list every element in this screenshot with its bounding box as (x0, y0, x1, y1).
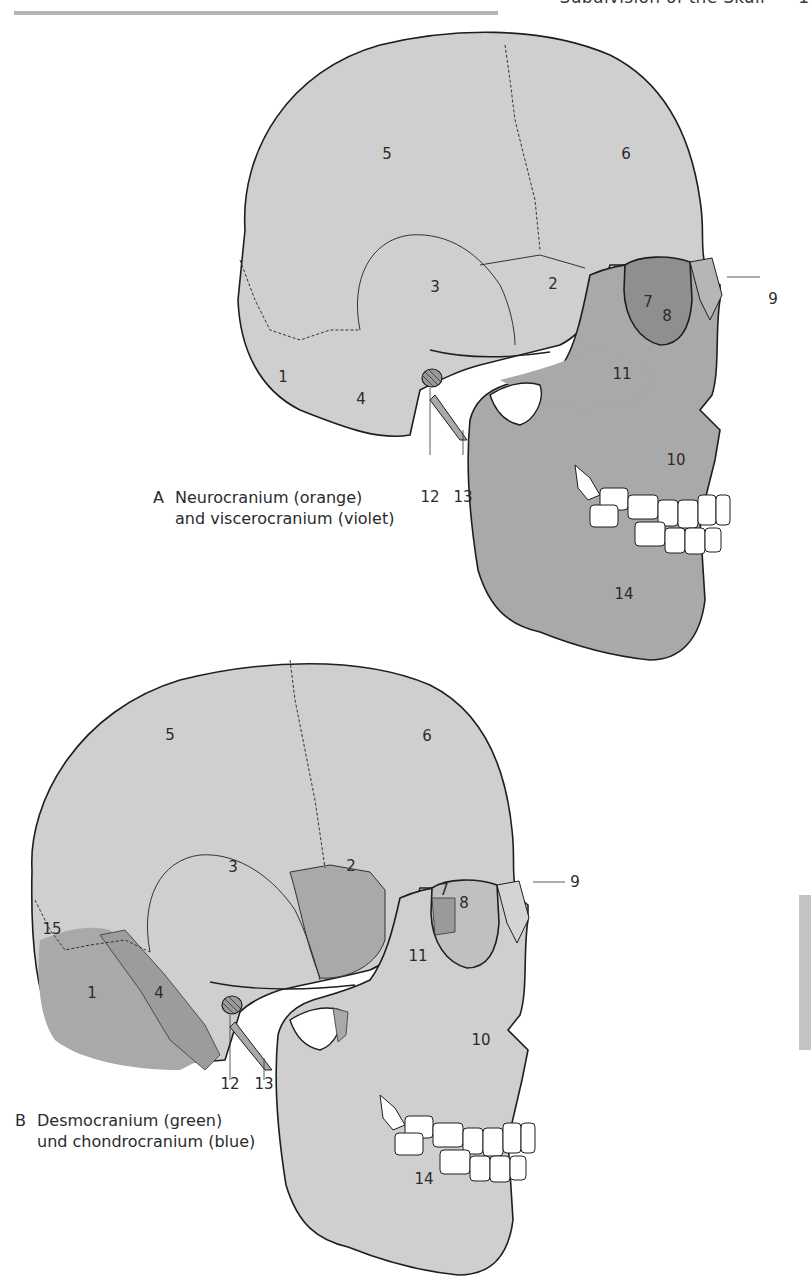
label-13: 13 (254, 1075, 273, 1093)
label-1: 1 (278, 368, 288, 386)
label-5: 5 (382, 145, 392, 163)
label-2: 2 (548, 275, 558, 293)
figure-b-caption: B Desmocranium (green) und chondrocraniu… (37, 1110, 255, 1152)
figure-a-skull-lateral-neuro-viscero: 1 2 3 4 5 6 7 8 9 10 11 12 13 14 A Neuro… (0, 0, 811, 670)
label-13: 13 (453, 488, 472, 506)
label-14: 14 (614, 585, 633, 603)
label-1: 1 (87, 984, 97, 1002)
label-14: 14 (414, 1170, 433, 1188)
label-7: 7 (439, 881, 449, 899)
label-10: 10 (471, 1031, 490, 1049)
label-15: 15 (42, 920, 61, 938)
label-12: 12 (420, 488, 439, 506)
label-4: 4 (356, 390, 366, 408)
label-12: 12 (220, 1075, 239, 1093)
figure-a-caption: A Neurocranium (orange) and viscerocrani… (175, 487, 394, 529)
label-3: 3 (430, 278, 440, 296)
label-7: 7 (643, 293, 653, 311)
label-3: 3 (228, 858, 238, 876)
label-6: 6 (621, 145, 631, 163)
label-11: 11 (612, 365, 631, 383)
figure-a-caption-line1: Neurocranium (orange) (175, 487, 394, 508)
label-4: 4 (154, 984, 164, 1002)
chapter-thumb-tab (799, 895, 811, 1050)
figure-b-caption-line2: und chondrocranium (blue) (37, 1131, 255, 1152)
figure-b-caption-line1: Desmocranium (green) (37, 1110, 255, 1131)
label-8: 8 (662, 307, 672, 325)
label-5: 5 (165, 726, 175, 744)
label-9: 9 (570, 873, 580, 891)
label-2: 2 (346, 857, 356, 875)
figure-b-letter: B (15, 1110, 26, 1131)
figure-a-letter: A (153, 487, 164, 508)
label-9: 9 (768, 290, 778, 308)
figure-a-caption-line2: and viscerocranium (violet) (175, 508, 394, 529)
label-11: 11 (408, 947, 427, 965)
skull-a-illustration (0, 0, 811, 670)
skull-b-illustration (0, 640, 811, 1280)
figure-b-skull-lateral-desmo-chondro: 1 2 3 4 5 6 7 8 9 10 11 12 13 14 15 B De… (0, 640, 811, 1280)
label-10: 10 (666, 451, 685, 469)
label-8: 8 (459, 894, 469, 912)
label-6: 6 (422, 727, 432, 745)
